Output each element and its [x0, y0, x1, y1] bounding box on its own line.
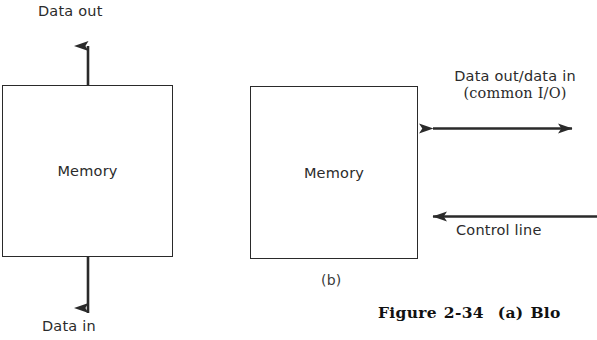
figure-caption: Figure2-34(a)Blo: [378, 303, 561, 322]
figure-canvas: Memory Memory Data out Data in Data out/…: [0, 0, 597, 340]
memory-box-b-label: Memory: [304, 165, 364, 181]
caption-text: Blo: [530, 303, 560, 322]
caption-number: 2-34: [444, 303, 484, 322]
label-common-io-line1: Data out/data in: [454, 68, 576, 84]
memory-box-b: Memory: [250, 86, 418, 259]
memory-box-a: Memory: [2, 85, 173, 257]
label-data-out: Data out: [38, 3, 103, 19]
label-control-line: Control line: [456, 222, 542, 238]
memory-box-a-label: Memory: [57, 163, 117, 179]
label-data-in: Data in: [42, 318, 96, 334]
label-subfigure-b: (b): [321, 272, 341, 288]
label-common-io-line2: (common I/O): [435, 85, 595, 102]
caption-label: Figure: [378, 303, 437, 322]
label-common-io: Data out/data in (common I/O): [435, 68, 595, 102]
caption-part: (a): [498, 303, 524, 322]
